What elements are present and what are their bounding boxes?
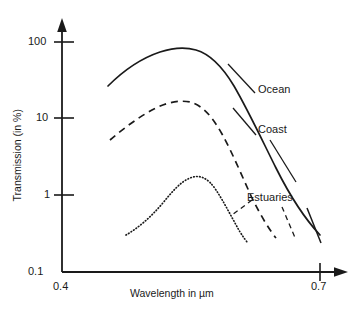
leader-line-estuaries-stub <box>282 207 296 240</box>
y-axis <box>57 18 67 272</box>
chart-plot-area <box>0 0 358 314</box>
series-curve-coast <box>110 101 276 238</box>
series-label-coast: Coast <box>258 124 287 135</box>
x-tick-label-0-7: 0.7 <box>311 281 326 292</box>
y-tick-label-100: 100 <box>28 36 46 47</box>
y-tick-label-10: 10 <box>36 112 48 123</box>
y-axis-ticks <box>54 42 74 195</box>
x-axis-title: Wavelength in µm <box>130 288 214 299</box>
x-axis <box>62 267 348 277</box>
series-curve-ocean <box>108 48 320 235</box>
chart-figure: 100 10 1 0.1 0.4 0.7 Transmission (in %)… <box>0 0 358 314</box>
leader-line-ocean <box>228 64 255 93</box>
series-label-ocean: Ocean <box>258 84 290 95</box>
y-axis-title: Transmission (in %) <box>12 95 23 215</box>
x-tick-label-0-4: 0.4 <box>53 281 68 292</box>
y-tick-label-1: 1 <box>44 189 50 200</box>
y-tick-label-0-1: 0.1 <box>28 266 43 277</box>
leader-line-coast-tail <box>270 140 296 182</box>
series-curve-estuaries <box>126 177 248 244</box>
leader-line-ocean-tail <box>307 208 321 243</box>
series-label-estuaries: Estuaries <box>247 192 293 203</box>
